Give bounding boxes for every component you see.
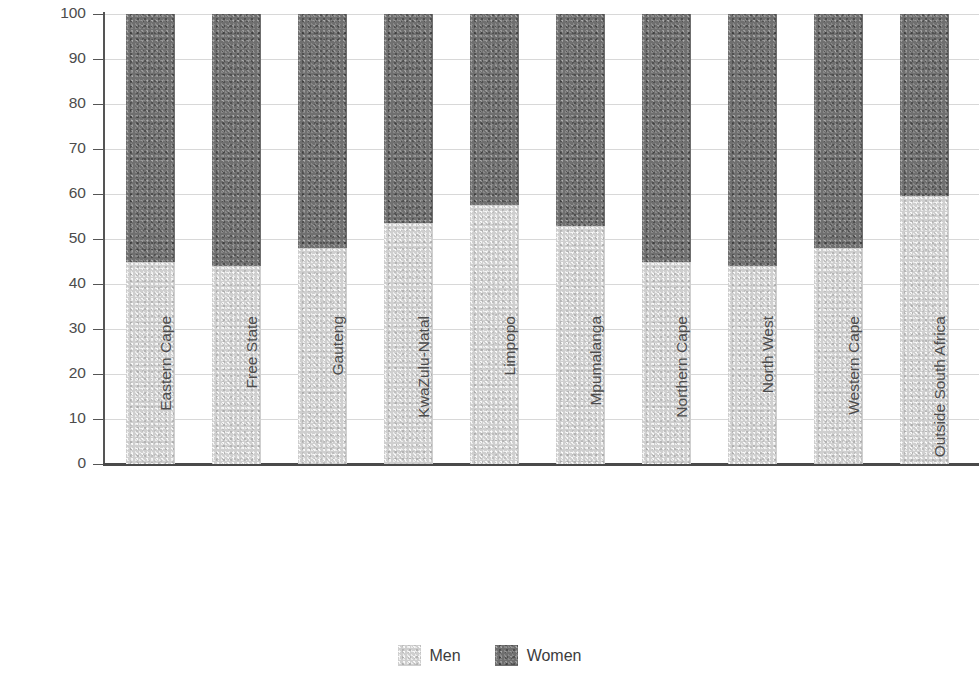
x-axis-tick-label: Limpopo bbox=[501, 316, 519, 476]
y-axis-tick-label: 90 bbox=[26, 49, 86, 67]
y-axis-tick bbox=[93, 329, 103, 330]
y-axis-tick-label: 30 bbox=[26, 319, 86, 337]
y-axis-tick-label: 0 bbox=[26, 454, 86, 472]
x-axis-tick-label: Outside South Africa bbox=[931, 316, 949, 476]
y-axis-tick bbox=[93, 59, 103, 60]
y-axis-tick bbox=[93, 419, 103, 420]
y-axis-tick bbox=[93, 239, 103, 240]
x-axis-tick-label: Western Cape bbox=[845, 316, 863, 476]
x-axis-tick-label: KwaZulu-Natal bbox=[415, 316, 433, 476]
y-axis-tick bbox=[93, 374, 103, 375]
y-axis-tick-label: 60 bbox=[26, 184, 86, 202]
x-axis-tick-label: Gauteng bbox=[329, 316, 347, 476]
x-axis-tick-label: Eastern Cape bbox=[157, 316, 175, 476]
legend-swatch-icon bbox=[495, 645, 518, 666]
y-axis-tick-label: 50 bbox=[26, 229, 86, 247]
y-axis-tick bbox=[93, 464, 103, 465]
bar-segment-women bbox=[212, 14, 261, 266]
y-axis-tick-label: 100 bbox=[26, 4, 86, 22]
y-axis-tick bbox=[93, 14, 103, 15]
bar-segment-women bbox=[642, 14, 691, 262]
x-axis-tick-label: North West bbox=[759, 316, 777, 476]
x-axis-tick-label: Mpumalanga bbox=[587, 316, 605, 476]
legend-swatch-icon bbox=[398, 645, 421, 666]
bar-segment-women bbox=[126, 14, 175, 262]
y-axis-tick bbox=[93, 149, 103, 150]
legend-item: Men bbox=[398, 645, 461, 666]
y-axis-tick bbox=[93, 104, 103, 105]
bar-segment-women bbox=[384, 14, 433, 223]
y-axis-tick-label: 20 bbox=[26, 364, 86, 382]
bar-segment-women bbox=[814, 14, 863, 248]
legend-label: Women bbox=[527, 647, 582, 665]
y-axis-tick bbox=[93, 194, 103, 195]
bar-segment-women bbox=[470, 14, 519, 205]
y-axis-tick-label: 10 bbox=[26, 409, 86, 427]
y-axis-tick-label: 80 bbox=[26, 94, 86, 112]
x-axis-tick-label: Northern Cape bbox=[673, 316, 691, 476]
stacked-bar-chart: Percent 0102030405060708090100 Eastern C… bbox=[0, 0, 979, 680]
legend-item: Women bbox=[495, 645, 582, 666]
y-axis-tick-label: 40 bbox=[26, 274, 86, 292]
x-axis-tick-label: Free State bbox=[243, 316, 261, 476]
y-axis-tick bbox=[93, 284, 103, 285]
y-axis-tick-label: 70 bbox=[26, 139, 86, 157]
bar-segment-women bbox=[728, 14, 777, 266]
bar-segment-women bbox=[556, 14, 605, 226]
legend-label: Men bbox=[430, 647, 461, 665]
bar-segment-women bbox=[900, 14, 949, 196]
bar-segment-women bbox=[298, 14, 347, 248]
chart-legend: MenWomen bbox=[0, 645, 979, 666]
